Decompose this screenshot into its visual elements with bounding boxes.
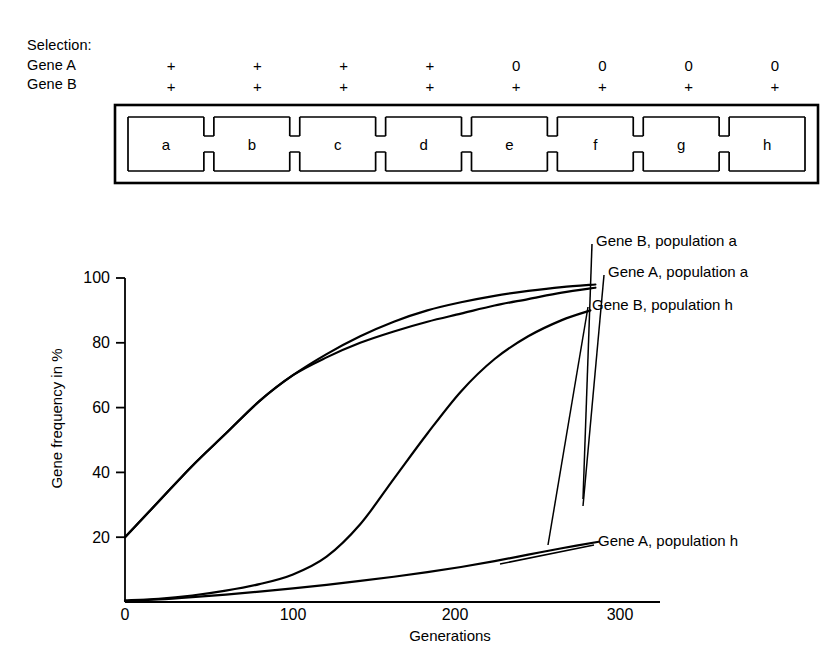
gene-b-row-label: Gene B [27,75,92,95]
cage-chamber-letter-f: f [593,136,598,153]
leader-line-gene-a-population-h [500,545,594,564]
cage-passage-f-g [633,136,643,152]
gene-a-symbol: + [128,55,214,76]
selection-row-labels: Selection: Gene A Gene B [27,36,92,95]
cage-chamber-letter-b: b [248,136,256,153]
curve-gene-a-population-a [125,288,595,537]
gene-b-symbol: + [301,76,387,97]
y-axis-ticks [116,278,125,537]
gene-a-symbol-row: + + + + 0 0 0 0 [128,55,818,76]
cage-chamber-letters: abcdefgh [162,136,771,153]
gene-b-symbol: + [559,76,645,97]
gene-b-symbol: + [387,76,473,97]
curve-label-gene-b-population-a: Gene B, population a [596,232,737,249]
cage-passage-d-e [462,136,472,152]
population-cage-diagram: abcdefgh [113,103,820,185]
cage-chamber-letter-c: c [334,136,342,153]
curve-label-gene-a-population-h: Gene A, population h [598,532,738,549]
cage-passage-a-b [204,136,214,152]
gene-a-symbol: 0 [732,55,818,76]
curve-gene-b-population-a [125,284,595,537]
cage-passage-c-d [376,136,386,152]
cage-chamber-letter-e: e [505,136,513,153]
leader-line-gene-b-population-h [548,307,588,545]
gene-a-symbol: + [214,55,300,76]
cage-passage-b-c [290,136,300,152]
gene-b-symbol: + [732,76,818,97]
selection-symbol-grid: + + + + 0 0 0 0 + + + + + + + + [128,55,818,99]
cage-passage-g-h [719,136,729,152]
gene-frequency-chart: Gene frequency in % 100 80 60 40 20 0 10… [0,215,833,665]
selection-title: Selection: [27,36,92,56]
curve-gene-a-population-h [125,542,599,601]
gene-a-symbol: + [387,55,473,76]
figure-root: Selection: Gene A Gene B + + + + 0 0 0 0… [0,0,833,665]
cage-chamber-letter-a: a [162,136,171,153]
curve-label-gene-a-population-a: Gene A, population a [608,263,748,280]
cage-chamber-letter-h: h [763,136,771,153]
cage-chamber-group [128,117,805,171]
cage-chamber-letter-g: g [677,136,685,153]
plot-area [0,215,833,665]
gene-a-symbol: + [301,55,387,76]
gene-a-symbol: 0 [646,55,732,76]
gene-b-symbol: + [646,76,732,97]
curve-group [125,284,599,601]
gene-a-row-label: Gene A [27,56,92,76]
curve-label-gene-b-population-h: Gene B, population h [592,296,733,313]
cage-passage-e-f [547,136,557,152]
gene-a-symbol: 0 [473,55,559,76]
gene-a-symbol: 0 [559,55,645,76]
gene-b-symbol: + [473,76,559,97]
gene-b-symbol: + [128,76,214,97]
cage-chamber-letter-d: d [419,136,427,153]
gene-b-symbol: + [214,76,300,97]
gene-b-symbol-row: + + + + + + + + [128,76,818,97]
